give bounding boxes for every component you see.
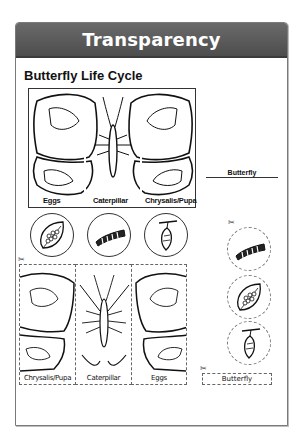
cutout-panel-chrysalis: Chrysalis/Pupa <box>19 264 76 385</box>
answer-line-butterfly: Butterfly <box>206 169 278 178</box>
scissors-icon: ✂ <box>228 219 235 227</box>
scissors-icon: ✂ <box>18 256 25 264</box>
top-label-chrysalis: Chrysalis/Pupa <box>145 196 196 205</box>
transparency-frame: Transparency Butterfly Life Cycle <box>15 22 288 426</box>
top-label-caterpillar: Caterpillar <box>93 196 128 205</box>
cutout-circle-eggs <box>227 275 271 319</box>
header-title: Transparency <box>82 29 221 50</box>
circle-eggs <box>30 213 74 257</box>
circle-caterpillar <box>87 213 131 257</box>
cutout-panel-caterpillar: Caterpillar <box>75 264 132 385</box>
cutout-circle-chrysalis <box>227 321 271 365</box>
right-wing-fragment-icon <box>132 265 187 385</box>
caterpillar-icon <box>88 214 132 258</box>
left-wing-fragment-icon <box>20 265 76 385</box>
scissors-icon: ✂ <box>200 365 207 373</box>
butterfly-illustration-icon <box>29 89 197 209</box>
cutout-label-chrysalis: Chrysalis/Pupa <box>20 374 75 382</box>
eggs-on-leaf-icon <box>228 276 272 320</box>
cutout-tag-butterfly: Butterfly <box>202 373 272 385</box>
butterfly-body-fragment-icon <box>76 265 132 385</box>
top-label-eggs: Eggs <box>43 196 61 205</box>
caterpillar-icon <box>228 228 272 272</box>
cutout-panel-eggs: Eggs <box>131 264 187 385</box>
cutout-label-eggs: Eggs <box>132 374 186 382</box>
chrysalis-icon <box>228 322 272 366</box>
chrysalis-icon <box>145 214 189 258</box>
eggs-on-leaf-icon <box>31 214 75 258</box>
worksheet-title: Butterfly Life Cycle <box>24 68 142 83</box>
circle-chrysalis <box>144 213 188 257</box>
cutout-circle-caterpillar <box>227 227 271 271</box>
cutout-label-caterpillar: Caterpillar <box>76 374 131 382</box>
header-bar: Transparency <box>16 23 287 58</box>
butterfly-diagram: Eggs Caterpillar Chrysalis/Pupa <box>28 88 196 208</box>
